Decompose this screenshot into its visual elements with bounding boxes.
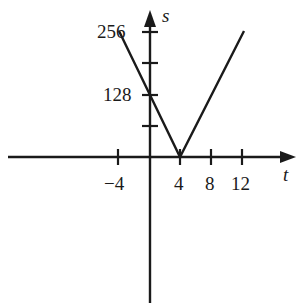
tick-label-8: 8 [205,173,215,194]
x-axis-label: t [283,164,289,185]
v-shaped-line [119,31,244,157]
tick-label-12: 12 [231,173,250,194]
tick-label-128: 128 [103,84,132,105]
tick-label-neg4: −4 [104,173,125,194]
x-axis-arrow-icon [280,151,296,163]
tick-label-256: 256 [97,21,126,42]
plot-svg: −4 4 8 12 128 256 t s [0,0,296,308]
y-axis-label: s [162,5,169,26]
tick-label-4: 4 [174,173,184,194]
y-axis-arrow-icon [144,10,156,27]
graph: −4 4 8 12 128 256 t s [0,0,296,308]
